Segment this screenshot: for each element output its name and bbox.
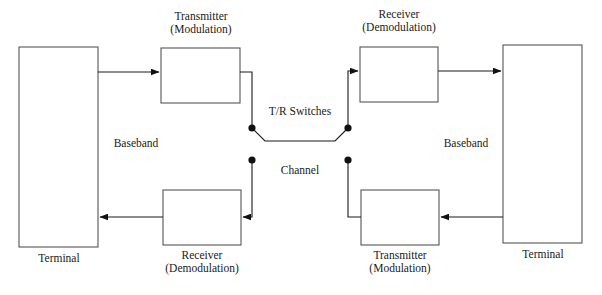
box-receiver-top-right (360, 47, 438, 102)
transmitter-top-left-label-line1: Transmitter (150, 10, 252, 23)
receiver-top-right-label-line2: (Demodulation) (343, 21, 455, 34)
receiver-bottom-left-label-line1: Receiver (148, 249, 256, 262)
tr-switch-node-group (248, 124, 351, 163)
transmitter-bottom-right-label: Transmitter (Modulation) (349, 249, 451, 275)
transmitter-bottom-right-label-line1: Transmitter (349, 249, 451, 262)
box-terminal-left (19, 47, 98, 247)
receiver-top-right-label: Receiver (Demodulation) (343, 8, 455, 34)
box-receiver-bottom-left (163, 190, 241, 245)
receiver-bottom-left-label: Receiver (Demodulation) (148, 249, 256, 275)
transmitter-top-left-label: Transmitter (Modulation) (150, 10, 252, 36)
tr-switch-lower-left-node (248, 156, 255, 163)
receiver-top-right-label-line1: Receiver (343, 8, 455, 21)
link-tr-switch-lower-left-to-receiver-bottom (243, 160, 252, 217)
box-terminal-right (503, 45, 582, 243)
link-tr-switch-upper-right-to-receiver (348, 71, 358, 128)
receiver-bottom-left-label-line2: (Demodulation) (148, 262, 256, 275)
tr-switch-upper-right-node (344, 124, 351, 131)
terminal-left-label: Terminal (18, 252, 100, 265)
tr-switch-upper-left-node (248, 124, 255, 131)
baseband-left-label: Baseband (96, 137, 176, 150)
link-transmitter-to-tr-switch-upper-left (240, 72, 252, 128)
tr-switches-label: T/R Switches (258, 105, 342, 118)
box-transmitter-bottom-right (361, 190, 439, 245)
transmitter-bottom-right-label-line2: (Modulation) (349, 262, 451, 275)
channel-label: Channel (266, 164, 334, 177)
link-tr-switch-bridge-upper (252, 128, 348, 141)
link-transmitter-bottom-to-tr-switch-lower-right (348, 160, 361, 217)
transmitter-top-left-label-line2: (Modulation) (150, 23, 252, 36)
baseband-right-label: Baseband (426, 137, 506, 150)
terminal-right-label: Terminal (502, 248, 584, 261)
box-transmitter-top-left (161, 48, 240, 103)
block-diagram-canvas: Transmitter (Modulation) Receiver (Demod… (0, 0, 602, 295)
tr-switch-lower-right-node (344, 156, 351, 163)
